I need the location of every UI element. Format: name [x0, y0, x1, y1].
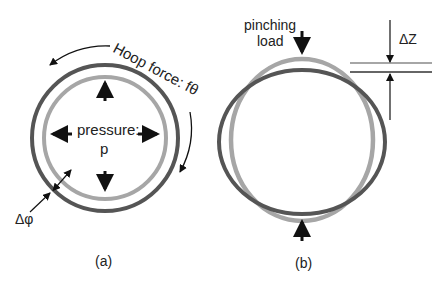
pinching-label: pinching	[244, 18, 296, 32]
thickness-label: Δφ	[15, 212, 33, 226]
delta-z-label: ΔZ	[399, 32, 417, 46]
caption-a: (a)	[95, 254, 112, 268]
figure-b	[219, 20, 432, 241]
hoop-arrow-right-icon	[180, 112, 191, 172]
hoop-arrow-top-icon	[50, 46, 110, 65]
pressure-label: pressure:	[77, 122, 140, 137]
diagram-canvas	[0, 0, 445, 282]
load-label: load	[257, 34, 283, 48]
caption-b: (b)	[295, 256, 312, 270]
thickness-leader-icon	[30, 193, 50, 212]
deformed-ring	[219, 70, 385, 214]
pressure-symbol: p	[100, 141, 108, 156]
